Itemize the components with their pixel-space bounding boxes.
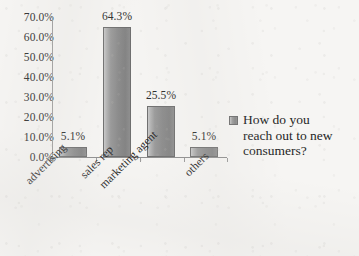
legend-swatch-icon: [229, 116, 238, 125]
bar-value-label: 5.1%: [180, 130, 228, 142]
legend-label: How do you reach out to new consumers?: [243, 112, 333, 159]
x-axis-tick-mark: [227, 158, 228, 162]
x-axis-category-label-advertising: advertising: [23, 141, 68, 186]
x-axis-tick-mark: [184, 158, 185, 162]
x-axis-tick-mark: [140, 158, 141, 162]
y-axis-tick-label: 70.0%: [0, 11, 54, 23]
y-axis-tick-label: 10.0%: [0, 131, 54, 143]
bar-value-label: 64.3%: [93, 10, 141, 22]
legend: How do you reach out to new consumers?: [229, 112, 333, 159]
legend-label-line-1: How do you: [243, 112, 333, 128]
y-axis-tick-label: 50.0%: [0, 51, 54, 63]
plot-area: 70.0% 60.0% 50.0% 40.0% 30.0% 20.0% 10.0…: [0, 0, 359, 256]
y-axis-tick-label: 20.0%: [0, 111, 54, 123]
x-axis-category-label-others: others: [182, 150, 211, 179]
y-axis-tick-label: 60.0%: [0, 31, 54, 43]
legend-label-line-2: reach out to new: [243, 128, 333, 144]
y-axis-tick-label: 40.0%: [0, 71, 54, 83]
y-axis-tick-label: 30.0%: [0, 91, 54, 103]
chart-figure: 70.0% 60.0% 50.0% 40.0% 30.0% 20.0% 10.0…: [0, 0, 359, 256]
bar-sales-rep: [103, 27, 131, 157]
bar-value-label: 25.5%: [137, 89, 185, 101]
legend-label-line-3: consumers?: [243, 143, 333, 159]
bar-value-label: 5.1%: [49, 130, 97, 142]
